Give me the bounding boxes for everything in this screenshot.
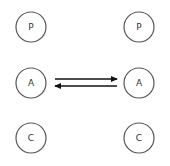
right-child-node: C	[124, 123, 154, 153]
right-parent-node: P	[124, 12, 154, 42]
right-child-label: C	[136, 133, 142, 143]
left-parent-label: P	[28, 22, 34, 32]
left-child-label: C	[28, 133, 34, 143]
left-adult-node: A	[16, 68, 46, 98]
right-person-ego-states: P A C	[124, 12, 154, 153]
left-person-ego-states: P A C	[16, 12, 46, 153]
ta-diagram: P A C P A C	[0, 0, 170, 166]
right-adult-label: A	[136, 78, 143, 88]
right-parent-label: P	[136, 22, 142, 32]
left-parent-node: P	[16, 12, 46, 42]
left-child-node: C	[16, 123, 46, 153]
right-adult-node: A	[124, 68, 154, 98]
left-adult-label: A	[28, 78, 35, 88]
